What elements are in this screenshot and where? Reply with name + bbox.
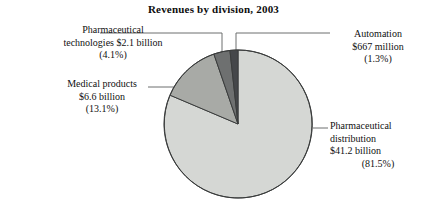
callout-line: (4.1%) [18, 49, 208, 62]
callout-line: (13.1%) [28, 103, 176, 116]
callout-line: $41.2 billion [330, 145, 426, 158]
pie-slices [164, 50, 312, 198]
callout-line: distribution [330, 133, 426, 146]
callout-medical-products: Medical products $6.6 billion (13.1%) [28, 78, 176, 116]
callout-line: $6.6 billion [28, 91, 176, 104]
callout-automation: Automation $667 million (1.3%) [332, 28, 424, 66]
callout-pharmaceutical-distribution: Pharmaceutical distribution $41.2 billio… [330, 120, 426, 170]
callout-line: Pharmaceutical [330, 120, 426, 133]
callout-line: Automation [332, 28, 424, 41]
leader-line-automation [236, 33, 330, 50]
callout-line: $667 million [332, 41, 424, 54]
callout-pharmaceutical-technologies: Pharmaceutical technologies $2.1 billion… [18, 24, 208, 62]
callout-line: technologies $2.1 billion [18, 37, 208, 50]
callout-line: Medical products [28, 78, 176, 91]
pie-chart-figure: Revenues by division, 2003 Pharmaceutica… [0, 0, 427, 216]
callout-line: (1.3%) [332, 53, 424, 66]
callout-line: Pharmaceutical [18, 24, 208, 37]
callout-line: (81.5%) [330, 158, 426, 171]
